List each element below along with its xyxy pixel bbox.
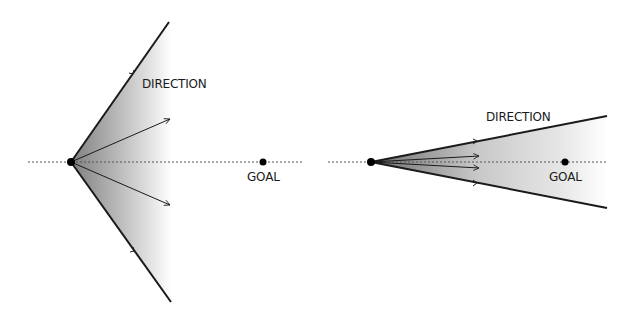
goal-point (562, 159, 569, 166)
origin-point (67, 158, 75, 166)
goal-label: GOAL (549, 170, 582, 184)
goal-label: GOAL (247, 170, 280, 184)
origin-point (367, 158, 375, 166)
wide-cone-panel: DIRECTION GOAL (28, 22, 304, 302)
direction-label: DIRECTION (486, 110, 551, 124)
diagram-canvas: DIRECTION GOAL DIRECTION GOAL (0, 0, 631, 320)
edge-arrowhead-icon (129, 70, 134, 74)
goal-point (260, 159, 267, 166)
direction-label: DIRECTION (142, 77, 207, 91)
narrow-cone-panel: DIRECTION GOAL (328, 110, 607, 208)
